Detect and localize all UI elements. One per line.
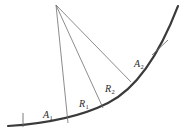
label-a1: A1 — [43, 110, 52, 120]
main-arc-curve — [8, 6, 178, 126]
label-r2-subscript: 2 — [111, 88, 114, 95]
label-a2: A2 — [134, 59, 143, 69]
radial-line-3 — [56, 5, 131, 82]
radial-line-1 — [56, 5, 68, 123]
label-r2: R2 — [105, 84, 114, 94]
geometric-diagram: A1 R1 R2 A2 — [0, 0, 184, 134]
radial-line-2 — [56, 5, 103, 108]
label-a1-subscript: 1 — [49, 114, 52, 121]
label-r1-subscript: 1 — [85, 103, 88, 110]
label-r1: R1 — [79, 99, 88, 109]
diagram-canvas — [0, 0, 184, 134]
label-a2-subscript: 2 — [140, 63, 143, 70]
tick-mark-right — [152, 40, 168, 55]
